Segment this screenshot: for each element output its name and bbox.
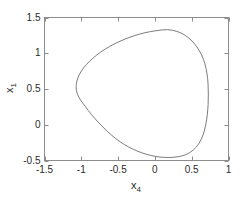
- plot-box: [45, 18, 229, 161]
- x-tick-label: -1.5: [36, 165, 53, 175]
- y-tick-label: 0.5: [27, 84, 41, 94]
- y-axis-label-subscript: 1: [9, 83, 18, 87]
- y-axis-label-base: x: [3, 87, 15, 93]
- y-tick-label: 1.5: [27, 13, 41, 23]
- y-tick-label: 0: [35, 120, 41, 130]
- x-tick-label: -0.5: [109, 165, 126, 175]
- y-axis-label: x1: [4, 83, 18, 93]
- x-tick-label: 0: [152, 165, 158, 175]
- axes-box: [45, 18, 229, 161]
- x-tick-label: 0.5: [185, 165, 199, 175]
- y-tick-label: -0.5: [23, 156, 40, 166]
- x-axis-label-subscript: 4: [137, 185, 141, 194]
- x-tick-label: -1: [77, 165, 86, 175]
- figure-canvas: -1.5-1-0.500.51-0.500.511.5 x4 x1: [0, 0, 245, 198]
- x-axis-label: x4: [131, 180, 141, 194]
- y-tick-label: 1: [35, 48, 41, 58]
- x-tick-label: 1: [226, 165, 232, 175]
